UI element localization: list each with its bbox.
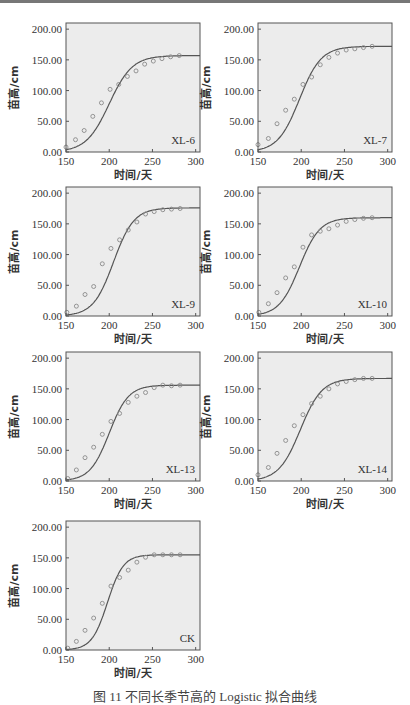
series-label: XL-7 — [363, 134, 387, 146]
x-tick-label: 250 — [336, 155, 353, 167]
x-tick-label: 200 — [101, 484, 118, 496]
x-tick-label: 200 — [293, 155, 310, 167]
x-tick-label: 150 — [250, 484, 267, 496]
y-tick-label: 100.00 — [224, 85, 255, 97]
y-tick-label: 150.00 — [224, 383, 255, 395]
y-tick-label: 200.00 — [32, 187, 63, 199]
x-tick-label: 150 — [58, 653, 75, 665]
x-tick-label: 200 — [101, 653, 118, 665]
x-tick-label: 150 — [58, 155, 75, 167]
plot-area — [258, 352, 392, 481]
y-tick-label: 50.00 — [37, 613, 62, 625]
x-tick-label: 250 — [144, 484, 161, 496]
y-tick-label: 50.00 — [229, 115, 254, 127]
x-tick-label: 300 — [379, 155, 396, 167]
plot-area — [66, 352, 200, 481]
chart-panel-xl-9: 0.0050.00100.00150.00200.00150200250300时… — [4, 177, 214, 352]
y-axis-label: 苗高/cm — [199, 395, 213, 439]
series-label: XL-6 — [171, 134, 195, 146]
x-tick-label: 300 — [379, 484, 396, 496]
series-label: CK — [180, 632, 195, 644]
chart-panel-ck: 0.0050.00100.00150.00200.00150200250300时… — [4, 511, 214, 686]
x-tick-label: 250 — [144, 319, 161, 331]
y-tick-label: 50.00 — [37, 115, 62, 127]
x-axis-label: 时间/天 — [114, 497, 152, 511]
series-label: XL-10 — [358, 298, 388, 310]
chart-panel-xl-10: 0.0050.00100.00150.00200.00150200250300时… — [196, 177, 406, 352]
y-tick-label: 150.00 — [224, 54, 255, 66]
plot-area — [66, 521, 200, 650]
y-tick-label: 50.00 — [229, 279, 254, 291]
y-tick-label: 100.00 — [224, 249, 255, 261]
x-tick-label: 250 — [144, 155, 161, 167]
x-axis-label: 时间/天 — [306, 497, 344, 511]
y-axis-label: 苗高/cm — [7, 564, 21, 608]
top-border-rule — [0, 0, 410, 3]
chart-panel-xl-13: 0.0050.00100.00150.00200.00150200250300时… — [4, 342, 214, 517]
y-tick-label: 200.00 — [224, 352, 255, 364]
x-tick-label: 150 — [58, 319, 75, 331]
y-tick-label: 150.00 — [224, 218, 255, 230]
y-tick-label: 200.00 — [224, 23, 255, 35]
y-axis-label: 苗高/cm — [199, 230, 213, 274]
y-tick-label: 150.00 — [32, 218, 63, 230]
y-axis-label: 苗高/cm — [7, 395, 21, 439]
chart-panel-xl-14: 0.0050.00100.00150.00200.00150200250300时… — [196, 342, 406, 517]
y-tick-label: 150.00 — [32, 552, 63, 564]
y-tick-label: 100.00 — [32, 414, 63, 426]
x-tick-label: 150 — [250, 319, 267, 331]
x-tick-label: 250 — [336, 484, 353, 496]
y-tick-label: 200.00 — [32, 23, 63, 35]
x-tick-label: 150 — [58, 484, 75, 496]
figure-caption: 图 11 不同长季节高的 Logistic 拟合曲线 — [0, 686, 410, 705]
x-tick-label: 300 — [379, 319, 396, 331]
x-tick-label: 250 — [336, 319, 353, 331]
y-tick-label: 50.00 — [37, 444, 62, 456]
y-axis-label: 苗高/cm — [7, 66, 21, 110]
x-tick-label: 200 — [101, 319, 118, 331]
y-tick-label: 50.00 — [37, 279, 62, 291]
y-tick-label: 100.00 — [32, 85, 63, 97]
plot-area — [258, 187, 392, 316]
x-tick-label: 200 — [293, 484, 310, 496]
chart-panel-xl-6: 0.0050.00100.00150.00200.00150200250300时… — [4, 13, 214, 188]
series-label: XL-13 — [166, 463, 196, 475]
x-tick-label: 300 — [187, 653, 204, 665]
x-axis-label: 时间/天 — [114, 666, 152, 680]
y-tick-label: 100.00 — [32, 249, 63, 261]
y-tick-label: 200.00 — [224, 187, 255, 199]
x-tick-label: 250 — [144, 653, 161, 665]
y-tick-label: 200.00 — [32, 521, 63, 533]
x-tick-label: 200 — [293, 319, 310, 331]
series-label: XL-9 — [171, 298, 195, 310]
x-tick-label: 200 — [101, 155, 118, 167]
y-tick-label: 150.00 — [32, 54, 63, 66]
y-axis-label: 苗高/cm — [199, 66, 213, 110]
plot-area — [66, 23, 200, 152]
y-tick-label: 100.00 — [32, 583, 63, 595]
y-axis-label: 苗高/cm — [7, 230, 21, 274]
y-tick-label: 100.00 — [224, 414, 255, 426]
plot-area — [258, 23, 392, 152]
x-tick-label: 150 — [250, 155, 267, 167]
y-tick-label: 200.00 — [32, 352, 63, 364]
series-label: XL-14 — [358, 463, 388, 475]
chart-panel-xl-7: 0.0050.00100.00150.00200.00150200250300时… — [196, 13, 406, 188]
y-tick-label: 50.00 — [229, 444, 254, 456]
y-tick-label: 150.00 — [32, 383, 63, 395]
